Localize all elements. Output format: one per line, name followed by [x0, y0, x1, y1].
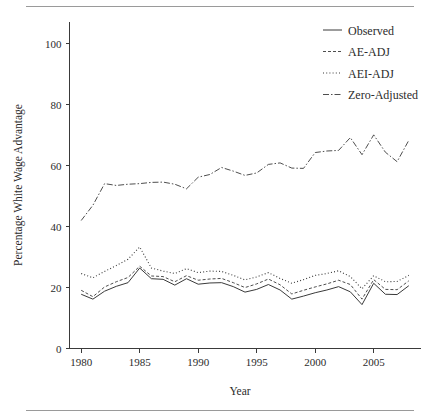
- y-tick-label: 100: [45, 38, 62, 50]
- x-tick-label: 2000: [304, 356, 327, 368]
- x-tick-label: 2005: [363, 356, 386, 368]
- x-axis: 198019851990199520002005: [70, 349, 421, 368]
- y-tick-label: 0: [56, 343, 62, 355]
- figure-container: 020406080100 198019851990199520002005 Ob…: [0, 0, 440, 418]
- series-line-zero-adjusted: [81, 135, 409, 221]
- y-axis: 020406080100: [45, 22, 70, 355]
- series-line-aei-adj: [81, 247, 409, 289]
- legend-label-observed: Observed: [348, 24, 394, 38]
- y-tick-label: 80: [51, 99, 63, 111]
- x-tick-label: 1995: [246, 356, 269, 368]
- x-tick-label: 1990: [187, 356, 210, 368]
- y-tick-label: 60: [51, 160, 63, 172]
- y-tick-label: 20: [51, 282, 63, 294]
- y-axis-title: Percentage White Wage Advantage: [12, 104, 25, 266]
- legend: ObservedAE-ADJAEI-ADJZero-Adjusted: [323, 24, 418, 103]
- legend-label-aei-adj: AEI-ADJ: [348, 67, 394, 81]
- y-tick-label: 40: [51, 221, 63, 233]
- series-lines: [81, 135, 409, 305]
- x-tick-label: 1980: [70, 356, 93, 368]
- legend-label-zero-adjusted: Zero-Adjusted: [348, 88, 418, 102]
- series-line-observed: [81, 268, 409, 305]
- x-axis-title: Year: [229, 385, 250, 397]
- series-line-ae-adj: [81, 266, 409, 299]
- legend-label-ae-adj: AE-ADJ: [348, 45, 390, 59]
- x-tick-label: 1985: [129, 356, 152, 368]
- chart-canvas: 020406080100 198019851990199520002005 Ob…: [0, 0, 440, 418]
